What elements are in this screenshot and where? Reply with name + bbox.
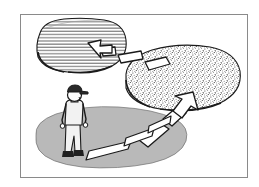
region-hatched-cloud: [37, 18, 126, 73]
person-shoe-right: [73, 150, 84, 156]
person-cap-brim: [80, 91, 88, 94]
person-shoe-left: [62, 151, 74, 157]
person-hand-left: [60, 124, 65, 129]
region-ground-ellipse: [36, 107, 187, 168]
person-hand-right: [83, 123, 88, 128]
illustration-svg: [0, 0, 259, 187]
illustration-canvas: Stepping-stone path illustration Line dr…: [0, 0, 259, 187]
person-torso: [65, 100, 83, 125]
